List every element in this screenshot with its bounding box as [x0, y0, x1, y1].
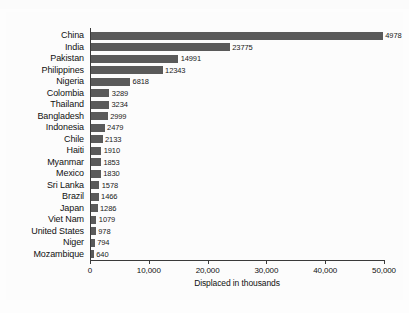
- bar-value-label: 1853: [103, 157, 119, 168]
- x-axis-tick-label: 10,000: [137, 266, 161, 276]
- bar: [90, 78, 130, 86]
- x-axis-tick-label: 40,000: [313, 266, 337, 276]
- bar-row: Chile2133: [0, 134, 409, 145]
- category-label: Bangladesh: [0, 111, 84, 122]
- x-axis-tick: [149, 260, 150, 264]
- bar-row: Nigeria6818: [0, 76, 409, 87]
- bar-row: Haiti1910: [0, 145, 409, 156]
- bar-value-label: 2133: [105, 134, 121, 145]
- bar-row: United States978: [0, 226, 409, 237]
- bar-value-label: 1578: [102, 180, 118, 191]
- bar-row: Brazil1466: [0, 191, 409, 202]
- bar: [90, 170, 101, 178]
- category-label: Indonesia: [0, 122, 84, 133]
- bar-value-label: 6818: [133, 76, 149, 87]
- category-label: Pakistan: [0, 53, 84, 64]
- bar: [90, 193, 99, 201]
- x-axis-tick: [90, 260, 91, 264]
- category-label: Myanmar: [0, 157, 84, 168]
- bar-row: Mozambique640: [0, 249, 409, 260]
- bar-value-label: 4978: [385, 30, 401, 41]
- bar-row: Thailand3234: [0, 99, 409, 110]
- x-axis-tick: [384, 260, 385, 264]
- x-axis-tick-label: 0: [88, 266, 92, 276]
- y-axis-line: [90, 28, 91, 260]
- bar: [90, 112, 108, 120]
- bar-row: Colombia3289: [0, 88, 409, 99]
- bar: [90, 124, 105, 132]
- category-label: Nigeria: [0, 76, 84, 87]
- bar-row: Sri Lanka1578: [0, 180, 409, 191]
- bar-value-label: 2999: [110, 111, 126, 122]
- category-label: Viet Nam: [0, 214, 84, 225]
- bar: [90, 32, 383, 40]
- bar-value-label: 2479: [107, 122, 123, 133]
- x-axis-tick-label: 50,000: [372, 266, 396, 276]
- bar-row: Myanmar1853: [0, 157, 409, 168]
- bar: [90, 66, 163, 74]
- category-label: China: [0, 30, 84, 41]
- x-axis-tick-label: 20,000: [196, 266, 220, 276]
- x-axis-tick: [208, 260, 209, 264]
- bar: [90, 204, 98, 212]
- category-label: Mexico: [0, 168, 84, 179]
- bar-value-label: 1286: [100, 203, 116, 214]
- category-label: Haiti: [0, 145, 84, 156]
- bar-row: Niger794: [0, 237, 409, 248]
- bar-value-label: 640: [96, 249, 108, 260]
- x-axis-tick: [325, 260, 326, 264]
- bar-value-label: 3234: [112, 99, 128, 110]
- bar-value-label: 3289: [112, 88, 128, 99]
- category-label: Thailand: [0, 99, 84, 110]
- bar: [90, 55, 178, 63]
- category-label: Colombia: [0, 88, 84, 99]
- category-label: Sri Lanka: [0, 180, 84, 191]
- bar-row: Philippines12343: [0, 65, 409, 76]
- bar-row: Viet Nam1079: [0, 214, 409, 225]
- category-label: Mozambique: [0, 249, 84, 260]
- bar: [90, 101, 109, 109]
- bar: [90, 89, 109, 97]
- x-axis-title: Displaced in thousands: [90, 278, 384, 288]
- category-label: United States: [0, 226, 84, 237]
- category-label: Philippines: [0, 65, 84, 76]
- bar-row: Pakistan14991: [0, 53, 409, 64]
- bar-value-label: 14991: [181, 53, 201, 64]
- bar: [90, 135, 103, 143]
- category-label: Brazil: [0, 191, 84, 202]
- bar-value-label: 794: [97, 237, 109, 248]
- bar-row: Japan1286: [0, 203, 409, 214]
- bar: [90, 43, 230, 51]
- x-axis-line: [90, 260, 384, 261]
- bar-row: China4978: [0, 30, 409, 41]
- plot-area: China4978India23775Pakistan14991Philippi…: [0, 0, 409, 313]
- bar-value-label: 1830: [103, 168, 119, 179]
- bar-value-label: 1079: [99, 214, 115, 225]
- bar-row: Mexico1830: [0, 168, 409, 179]
- category-label: Japan: [0, 203, 84, 214]
- category-label: Chile: [0, 134, 84, 145]
- x-axis-tick: [266, 260, 267, 264]
- bar-value-label: 23775: [232, 42, 252, 53]
- category-label: India: [0, 42, 84, 53]
- bar-value-label: 12343: [165, 65, 185, 76]
- bar: [90, 158, 101, 166]
- x-axis-tick-label: 30,000: [254, 266, 278, 276]
- category-label: Niger: [0, 237, 84, 248]
- bar-value-label: 1910: [104, 145, 120, 156]
- bar: [90, 181, 99, 189]
- bar-row: Bangladesh2999: [0, 111, 409, 122]
- bar-value-label: 1466: [101, 191, 117, 202]
- bar-value-label: 978: [98, 226, 110, 237]
- bar: [90, 147, 101, 155]
- bar-row: India23775: [0, 42, 409, 53]
- chart-figure: China4978India23775Pakistan14991Philippi…: [0, 0, 409, 313]
- bar-row: Indonesia2479: [0, 122, 409, 133]
